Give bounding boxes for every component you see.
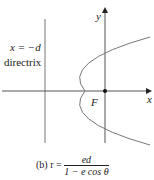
- x-axis-label: x: [147, 94, 152, 105]
- parabola-diagram: [0, 0, 154, 180]
- caption-prefix: (b) r =: [36, 159, 62, 170]
- caption: (b) r = ed 1 − e cos θ: [36, 154, 109, 177]
- focus-point: [103, 89, 107, 93]
- directrix-equation: x = −d: [10, 42, 41, 53]
- y-axis-label: y: [96, 11, 101, 22]
- focus-label: F: [91, 97, 98, 108]
- caption-numerator: ed: [64, 154, 108, 166]
- caption-denominator: 1 − e cos θ: [64, 166, 108, 177]
- directrix-label: directrix: [4, 57, 41, 68]
- caption-fraction: ed 1 − e cos θ: [64, 154, 108, 177]
